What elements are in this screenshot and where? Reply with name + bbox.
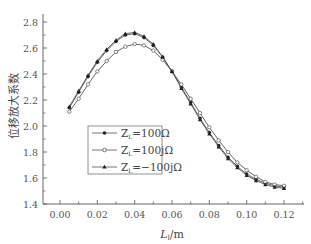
x-tick-label: 0.02	[87, 209, 108, 220]
data-point	[152, 49, 155, 52]
chart: 位移放大系数 1.41.61.82.02.22.42.62.80.000.020…	[0, 0, 311, 244]
data-point	[226, 150, 229, 153]
y-tick-label: 1.6	[23, 173, 38, 184]
filled-circle-marker-icon	[103, 131, 107, 135]
data-point	[133, 42, 136, 45]
data-point	[86, 83, 89, 86]
open-circle-marker-icon	[103, 148, 107, 152]
data-point	[198, 111, 201, 114]
data-point	[254, 175, 257, 178]
x-tick-label: 0.12	[273, 209, 294, 220]
data-point	[124, 45, 127, 48]
data-point	[217, 139, 220, 142]
x-axis-title-main: L	[159, 228, 167, 241]
data-point	[208, 126, 211, 129]
data-point	[114, 50, 117, 53]
x-axis-title-unit: /m	[170, 228, 185, 241]
x-tick-label: 0.08	[199, 209, 220, 220]
x-axis-title-text: Ll/m	[159, 228, 184, 242]
ticks: 1.41.61.82.02.22.42.62.80.000.020.040.06…	[23, 17, 303, 221]
data-point	[77, 97, 80, 100]
data-point	[189, 97, 192, 100]
y-tick-label: 2.0	[23, 121, 38, 132]
y-axis-title-text: 位移放大系数	[7, 73, 21, 139]
y-tick-label: 1.8	[23, 147, 38, 158]
y-axis-title: 位移放大系数	[7, 73, 21, 139]
data-point	[142, 44, 145, 47]
x-tick-label: 0.04	[124, 209, 145, 220]
legend: ZL=100Ω ZL=100jΩ ZL=−100jΩ	[88, 126, 182, 174]
data-point	[68, 110, 71, 113]
x-tick-label: 0.06	[161, 209, 182, 220]
axes	[43, 14, 304, 204]
x-axis-title: Ll/m	[159, 228, 184, 242]
data-point	[96, 70, 99, 73]
x-tick-label: 0.00	[49, 209, 70, 220]
y-tick-label: 1.4	[23, 199, 38, 210]
y-tick-label: 2.4	[23, 69, 38, 80]
x-tick-label: 0.10	[236, 209, 257, 220]
data-point	[245, 169, 248, 172]
data-point	[105, 59, 108, 62]
y-tick-label: 2.2	[23, 95, 38, 106]
y-tick-label: 2.8	[23, 17, 38, 28]
data-point	[236, 161, 239, 164]
y-tick-label: 2.6	[23, 43, 38, 54]
